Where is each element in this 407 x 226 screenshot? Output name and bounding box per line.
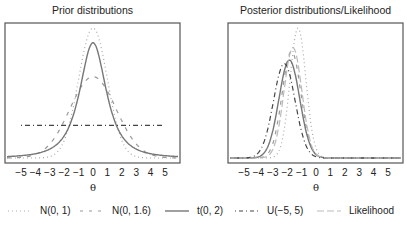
x-tick-label: 1 <box>328 167 334 178</box>
series-post-n016-line <box>230 51 401 158</box>
left-plot-frame <box>5 23 180 163</box>
dotted-line-icon <box>8 206 32 216</box>
x-tick-label: 0 <box>90 167 96 178</box>
x-tick-label: 1 <box>105 167 111 178</box>
x-tick-label: 5 <box>385 167 391 178</box>
legend-item-n016: N(0, 1.6) <box>80 205 151 216</box>
chart-legend: N(0, 1) N(0, 1.6) t(0, 2) U(−5, 5) Likel… <box>0 205 407 221</box>
x-tick-label: −1 <box>296 167 307 178</box>
x-tick-label: 0 <box>313 167 319 178</box>
chart-canvas <box>0 0 407 226</box>
left-x-axis-label: θ <box>90 182 96 193</box>
x-tick-label: 3 <box>133 167 139 178</box>
x-tick-label: −5 <box>15 167 26 178</box>
x-tick-label: −1 <box>73 167 84 178</box>
series-post-t02-line <box>230 60 401 158</box>
x-tick-label: 4 <box>148 167 154 178</box>
x-tick-label: −4 <box>253 167 264 178</box>
x-tick-label: 2 <box>342 167 348 178</box>
dashed-line-icon <box>80 206 104 216</box>
x-tick-label: −2 <box>58 167 69 178</box>
legend-label: U(−5, 5) <box>267 205 303 216</box>
legend-item-u55: U(−5, 5) <box>235 205 303 216</box>
right-plot-frame <box>228 23 403 163</box>
right-x-axis-label: θ <box>313 182 319 193</box>
x-tick-label: −2 <box>281 167 292 178</box>
series-likelihood-line <box>230 48 401 158</box>
legend-item-likelihood: Likelihood <box>317 205 394 216</box>
series-post-n01-line <box>230 28 401 158</box>
solid-line-icon <box>165 206 189 216</box>
legend-item-n01: N(0, 1) <box>8 205 71 216</box>
x-tick-label: −3 <box>44 167 55 178</box>
legend-item-t02: t(0, 2) <box>165 205 223 216</box>
x-tick-label: −5 <box>238 167 249 178</box>
legend-label: Likelihood <box>349 205 394 216</box>
longdash-line-icon <box>317 206 341 216</box>
x-tick-label: 4 <box>371 167 377 178</box>
x-tick-label: −4 <box>30 167 41 178</box>
dashdot-line-icon <box>235 206 259 216</box>
legend-label: N(0, 1) <box>40 205 71 216</box>
legend-label: N(0, 1.6) <box>112 205 151 216</box>
x-tick-label: 5 <box>162 167 168 178</box>
legend-label: t(0, 2) <box>197 205 223 216</box>
series-post-u55-line <box>230 64 401 158</box>
x-tick-label: 2 <box>119 167 125 178</box>
series-n016-line <box>7 77 178 158</box>
series-n01-line <box>7 28 178 158</box>
series-t02-line <box>7 43 178 157</box>
x-tick-label: 3 <box>356 167 362 178</box>
x-tick-label: −3 <box>267 167 278 178</box>
